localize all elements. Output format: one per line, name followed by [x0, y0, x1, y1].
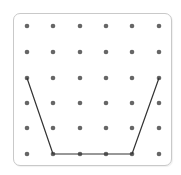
grid-dot	[130, 50, 135, 55]
grid-dot	[130, 76, 135, 81]
grid-dot	[25, 126, 30, 131]
grid-dot	[25, 152, 30, 157]
grid-dots	[25, 24, 162, 157]
grid-dot	[104, 24, 109, 29]
grid-dot	[78, 126, 83, 131]
grid-dot	[104, 50, 109, 55]
grid-dot	[130, 24, 135, 29]
grid-dot	[51, 126, 56, 131]
grid-dot	[130, 126, 135, 131]
grid-dot	[104, 76, 109, 81]
grid-dot	[25, 50, 30, 55]
grid-dot	[78, 24, 83, 29]
grid-dot	[157, 101, 162, 106]
grid-dot	[104, 101, 109, 106]
grid-dot	[157, 50, 162, 55]
grid-dot	[104, 126, 109, 131]
grid-dot	[157, 126, 162, 131]
grid-dot	[78, 50, 83, 55]
grid-dot	[51, 24, 56, 29]
grid-dot	[51, 50, 56, 55]
grid-dot	[25, 24, 30, 29]
grid-dot	[78, 101, 83, 106]
grid-dot	[51, 76, 56, 81]
grid-dot	[157, 152, 162, 157]
grid-dot	[130, 101, 135, 106]
grid-dot	[157, 24, 162, 29]
grid-dot	[78, 76, 83, 81]
grid-dot	[51, 101, 56, 106]
grid-dot	[25, 101, 30, 106]
dot-grid	[0, 0, 181, 175]
shape-polyline	[27, 78, 159, 154]
